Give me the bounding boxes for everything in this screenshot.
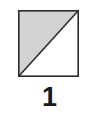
square-diagram [18,10,79,77]
figure-caption-number: 1 [0,83,99,112]
figure-container: 1 [0,0,99,117]
square-split-diagram-svg [18,10,79,77]
